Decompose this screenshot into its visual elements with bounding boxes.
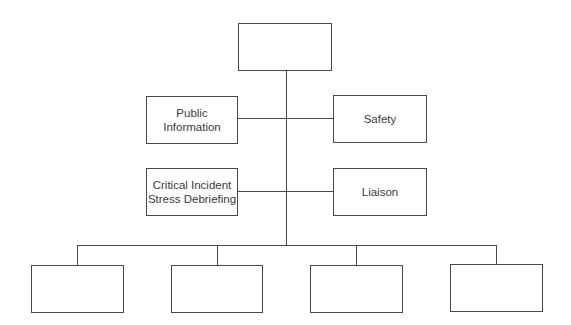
main-vertical-connector: [286, 71, 287, 246]
section-box-1: [31, 265, 124, 313]
drop-connector-2: [217, 245, 218, 265]
liaison-box: Liaison: [333, 168, 427, 216]
critical-incident-stress-debriefing-box: Critical Incident Stress Debriefing: [146, 168, 238, 216]
box-label: Public Information: [157, 106, 227, 134]
drop-connector-3: [356, 245, 357, 265]
section-box-3: [310, 265, 403, 313]
box-label: Safety: [364, 112, 397, 126]
box-label: Critical Incident Stress Debriefing: [147, 178, 237, 206]
sections-bus-connector: [77, 245, 497, 246]
incident-commander-box: [238, 23, 332, 71]
section-box-2: [171, 265, 263, 313]
drop-connector-4: [496, 245, 497, 265]
section-box-4: [450, 264, 543, 312]
box-label: Liaison: [362, 185, 398, 199]
connector-public-information: [238, 118, 286, 119]
org-chart: Public Information Safety Critical Incid…: [0, 0, 571, 325]
connector-cisd: [238, 191, 286, 192]
connector-safety: [286, 118, 333, 119]
drop-connector-1: [77, 245, 78, 265]
safety-box: Safety: [333, 95, 427, 143]
public-information-box: Public Information: [146, 96, 238, 144]
connector-liaison: [286, 191, 333, 192]
